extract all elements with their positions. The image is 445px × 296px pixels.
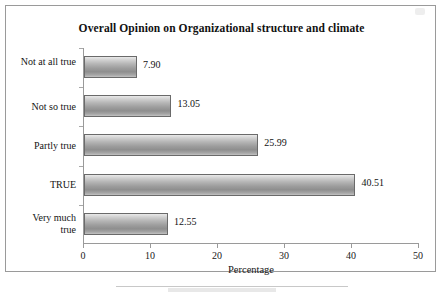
x-tick-40 — [351, 244, 352, 248]
chart-title: Overall Opinion on Organizational struct… — [6, 22, 437, 34]
x-tick-label-10: 10 — [135, 250, 165, 261]
bar-very-much-true[interactable] — [84, 213, 168, 235]
x-tick-label-30: 30 — [269, 250, 299, 261]
x-tick-30 — [284, 244, 285, 248]
x-tick-label-0: 0 — [68, 250, 98, 261]
plot-area: 01020304050 Not at all true7.90Not so tr… — [83, 48, 419, 244]
x-axis-title: Percentage — [83, 264, 419, 275]
bar-group: Very much true12.55 — [83, 205, 419, 244]
category-label-not-so-true: Not so true — [2, 101, 76, 113]
bar-group: Partly true25.99 — [83, 126, 419, 165]
bar-value-label: 40.51 — [361, 177, 384, 188]
bar-group: TRUE40.51 — [83, 166, 419, 205]
bar-value-label: 25.99 — [264, 137, 287, 148]
x-tick-20 — [217, 244, 218, 248]
bar-not-at-all-true[interactable] — [84, 56, 137, 78]
bar-not-so-true[interactable] — [84, 95, 171, 117]
x-tick-10 — [150, 244, 151, 248]
bar-value-label: 13.05 — [177, 98, 200, 109]
scan-artifact-top-right — [415, 8, 425, 15]
chart-figure: Overall Opinion on Organizational struct… — [0, 0, 445, 296]
bar-true[interactable] — [84, 174, 355, 196]
category-label-partly-true: Partly true — [2, 140, 76, 152]
category-label-not-at-all-true: Not at all true — [2, 56, 76, 68]
x-tick-label-20: 20 — [202, 250, 232, 261]
x-tick-label-50: 50 — [403, 250, 433, 261]
bar-value-label: 12.55 — [174, 216, 197, 227]
chart-frame: Overall Opinion on Organizational struct… — [5, 5, 436, 272]
bar-group: Not so true13.05 — [83, 87, 419, 126]
scan-artifact-caption — [168, 288, 276, 292]
bar-value-label: 7.90 — [143, 59, 161, 70]
category-label-very-much-true: Very much true — [2, 212, 76, 235]
x-tick-label-40: 40 — [336, 250, 366, 261]
x-tick-0 — [83, 244, 84, 248]
bar-group: Not at all true7.90 — [83, 48, 419, 87]
x-tick-50 — [418, 244, 419, 248]
bar-partly-true[interactable] — [84, 134, 258, 156]
scan-artifact-rule — [116, 286, 348, 287]
category-label-true: TRUE — [2, 179, 76, 191]
